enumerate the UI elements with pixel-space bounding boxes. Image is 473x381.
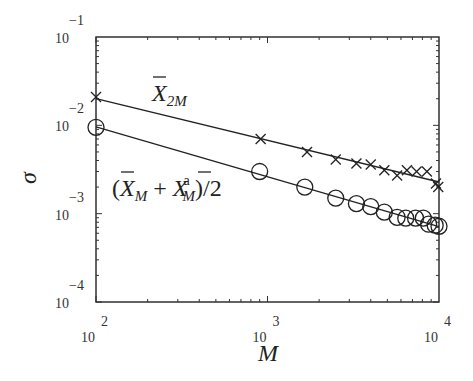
y-tick-label: 10	[55, 208, 69, 223]
x-tick-exponent: 3	[273, 314, 280, 329]
y-tick-label: 10	[55, 119, 69, 134]
cross-marker	[433, 182, 443, 192]
y-tick-label: 10	[55, 31, 69, 46]
cross-marker	[379, 165, 389, 175]
cross-marker	[331, 155, 341, 165]
y-axis-title: σ	[15, 171, 41, 184]
x-tick-exponent: 4	[444, 314, 451, 329]
x-tick-exponent: 2	[101, 314, 108, 329]
y-tick-exponent: −3	[69, 190, 84, 205]
annotation-x2m: X2M	[151, 77, 188, 109]
x-tick-label: 10	[81, 330, 95, 345]
circle-marker	[389, 209, 405, 225]
x-axis-title: M	[257, 340, 280, 366]
fit-lines	[96, 99, 439, 227]
chart: 10210310410−110−210−310−4 M σ X2M (XM + …	[0, 0, 473, 381]
x-tick-label: 10	[424, 330, 438, 345]
y-tick-exponent: −2	[69, 101, 84, 116]
cross-marker	[351, 158, 361, 168]
y-tick-exponent: −1	[69, 13, 84, 28]
cross-marker	[422, 167, 432, 177]
y-tick-exponent: −4	[69, 278, 84, 293]
cross-marker	[302, 147, 312, 157]
y-tick-label: 10	[55, 296, 69, 311]
circle-marker	[252, 164, 268, 180]
svg-text:(XM + XaM)/2: (XM + XaM)/2	[112, 173, 222, 204]
cross-marker	[412, 167, 422, 177]
annotation-average: (XM + XaM)/2	[112, 172, 222, 204]
svg-text:X2M: X2M	[151, 80, 188, 109]
